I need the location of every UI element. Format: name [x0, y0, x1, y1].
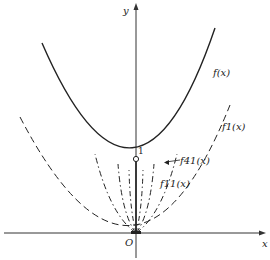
curve-f11-label: f11(x): [159, 178, 190, 189]
curve-inner-left: [129, 170, 136, 233]
point-one-label: 1: [138, 146, 144, 156]
curve-f11-left: [118, 164, 136, 233]
y-axis-arrow-icon: [134, 3, 139, 10]
curve-f1-label: f1(x): [221, 121, 246, 132]
curve-inner-right: [136, 170, 143, 233]
f41-leader-arrow-icon: [164, 160, 169, 165]
y-axis-label: y: [122, 5, 129, 16]
x-axis-arrow-icon: [259, 231, 266, 236]
x-axis-label: x: [262, 238, 268, 249]
origin-marker: [131, 231, 141, 234]
curve-f-label: f(x): [212, 67, 230, 78]
diagram-canvas: y x O 1 f(x) f1(x) f41(x) f11(x): [0, 0, 270, 260]
origin-label: O: [125, 237, 133, 248]
point-one-marker: [133, 156, 138, 161]
curve-f: [42, 28, 215, 148]
curve-f41-label: f41(x): [179, 155, 210, 166]
